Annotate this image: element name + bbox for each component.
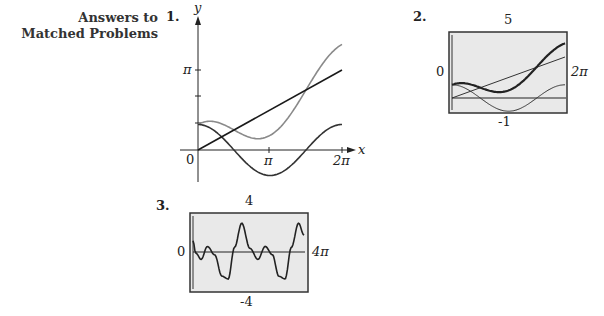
- curve-sum: [198, 44, 342, 138]
- graph-3-xmin: 0: [177, 244, 185, 259]
- graph-2-xmax: 2π: [571, 64, 588, 79]
- y-tick-pi: π: [183, 62, 192, 77]
- graph-2-ymax: 5: [504, 12, 512, 27]
- graph-2-xmin: 0: [436, 64, 444, 79]
- x-tick-2pi: 2π: [333, 153, 350, 168]
- graph-3-ymin: -4: [240, 294, 253, 309]
- y-axis-arrow-icon: [195, 16, 201, 25]
- graph-3-xmax: 4π: [312, 244, 329, 259]
- y-axis-label: y: [194, 0, 201, 15]
- curve-line: [198, 70, 342, 150]
- graph-1: [0, 0, 604, 316]
- x-axis-label: x: [358, 142, 365, 157]
- graph-2-ymin: -1: [498, 114, 511, 129]
- graph-3-ymax: 4: [245, 193, 253, 208]
- graph-2-window: [449, 32, 567, 113]
- x-tick-0: 0: [186, 152, 194, 167]
- x-tick-pi: π: [264, 153, 273, 168]
